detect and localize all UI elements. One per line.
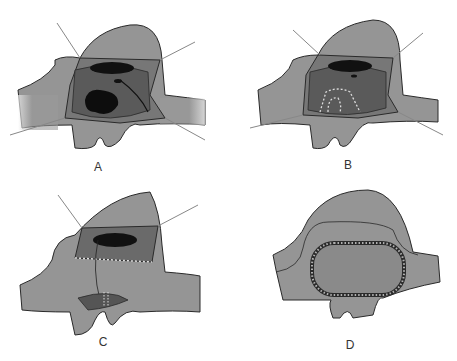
panel-label-a: A — [88, 160, 108, 174]
panel-c-illustration — [0, 180, 228, 361]
panel-d: D — [228, 180, 456, 360]
panel-b: B — [228, 0, 456, 180]
panel-label-b: B — [338, 158, 358, 172]
panel-label-d: D — [340, 338, 360, 352]
panel-label-c: C — [93, 335, 113, 349]
panel-c: C — [0, 180, 228, 360]
panel-a-illustration — [0, 0, 228, 180]
panel-d-illustration — [228, 180, 457, 361]
panel-a: A — [0, 0, 228, 180]
panel-b-illustration — [228, 0, 457, 180]
